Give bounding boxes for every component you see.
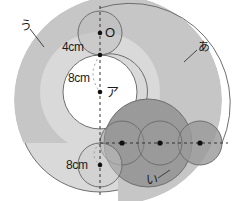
label-point-o: O (105, 26, 115, 39)
label-point-a-kana: ア (106, 85, 119, 98)
label-dim-top: 4cm (62, 41, 84, 53)
point-lower-dot (98, 163, 103, 168)
row-center-left-dot (119, 140, 124, 145)
point-tangent-top-dot (98, 53, 103, 58)
figure-canvas (0, 0, 235, 201)
row-center-right-dot (197, 140, 202, 145)
point-a-dot (98, 90, 103, 95)
label-region-i: い (146, 174, 158, 186)
geometry-figure: O 4cm 8cm ア 8cm う あ い (0, 0, 235, 201)
label-region-a: あ (198, 41, 210, 53)
label-region-u: う (20, 20, 32, 32)
label-dim-middle: 8cm (68, 72, 90, 84)
row-center-middle-dot (157, 140, 162, 145)
label-dim-bottom: 8cm (66, 159, 88, 171)
point-o-dot (98, 31, 103, 36)
